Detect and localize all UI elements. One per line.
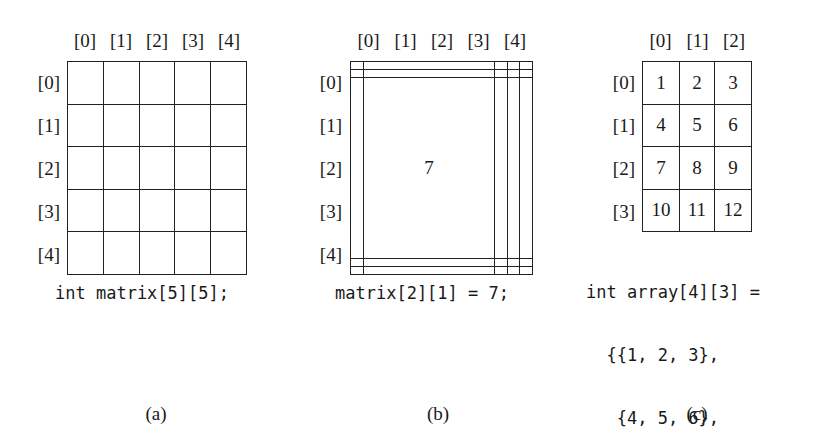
caption-c: (c) (667, 403, 727, 425)
cell: 12 (715, 189, 752, 232)
cell: 1 (643, 62, 680, 105)
col-header: [2] (716, 30, 752, 52)
code-line: int array[4][3] = (586, 282, 760, 303)
cell (68, 62, 104, 105)
code-assignment: matrix[2][1] = 7; (335, 283, 509, 304)
cell: 9 (715, 147, 752, 190)
row-header: [1] (20, 115, 60, 137)
cell (507, 69, 520, 77)
matrix-grid-b: 7 (350, 61, 533, 275)
cell (520, 62, 533, 70)
cell: 6 (715, 104, 752, 147)
row-header: [2] (302, 158, 342, 180)
cell (103, 62, 139, 105)
cell: 4 (643, 104, 680, 147)
col-header: [0] (642, 30, 679, 52)
cell (139, 189, 175, 232)
cell-assigned: 7 (363, 77, 495, 258)
row-header: [1] (302, 115, 342, 137)
col-header: [1] (679, 30, 716, 52)
cell (211, 147, 247, 190)
cell (175, 62, 211, 105)
cell (351, 259, 364, 267)
cell: 8 (679, 147, 714, 190)
cell (351, 77, 364, 258)
cell (351, 267, 364, 275)
cell (103, 104, 139, 147)
caption-b: (b) (408, 403, 468, 425)
row-header: [2] (593, 158, 635, 180)
row-header: [3] (593, 201, 635, 223)
cell (507, 267, 520, 275)
cell (68, 232, 104, 275)
cell: 2 (679, 62, 714, 105)
cell (520, 69, 533, 77)
code-line: {{1, 2, 3}, (586, 345, 760, 366)
row-header: [4] (302, 244, 342, 266)
row-header: [3] (302, 201, 342, 223)
cell (363, 267, 495, 275)
col-header: [0] (67, 30, 103, 52)
row-header: [0] (593, 72, 635, 94)
code-declaration: int matrix[5][5]; (55, 283, 229, 304)
cell: 7 (643, 147, 680, 190)
cell (139, 147, 175, 190)
cell (351, 62, 364, 70)
cell (495, 69, 508, 77)
row-header: [0] (20, 72, 60, 94)
cell (495, 267, 508, 275)
row-header: [2] (20, 158, 60, 180)
cell (175, 189, 211, 232)
cell (495, 259, 508, 267)
cell (363, 62, 495, 70)
cell (103, 189, 139, 232)
cell (68, 189, 104, 232)
cell (520, 77, 533, 258)
cell (495, 77, 508, 258)
col-header: [4] (497, 30, 533, 52)
cell: 3 (715, 62, 752, 105)
cell (139, 104, 175, 147)
row-header: [0] (302, 72, 342, 94)
cell (139, 62, 175, 105)
col-header: [2] (424, 30, 460, 52)
cell (495, 62, 508, 70)
col-header: [1] (387, 30, 424, 52)
cell (103, 232, 139, 275)
cell: 10 (643, 189, 680, 232)
cell (507, 62, 520, 70)
cell (139, 232, 175, 275)
cell (211, 104, 247, 147)
cell (363, 69, 495, 77)
cell (103, 147, 139, 190)
cell (363, 259, 495, 267)
col-header: [4] (211, 30, 247, 52)
cell (175, 232, 211, 275)
col-header: [1] (103, 30, 139, 52)
cell: 11 (679, 189, 714, 232)
cell: 5 (679, 104, 714, 147)
cell (507, 259, 520, 267)
cell (520, 259, 533, 267)
col-header: [0] (350, 30, 387, 52)
caption-a: (a) (126, 403, 186, 425)
cell (351, 69, 364, 77)
array-grid-c: 123 456 789 101112 (642, 61, 752, 232)
cell (211, 232, 247, 275)
row-header: [4] (20, 244, 60, 266)
col-header: [2] (139, 30, 175, 52)
cell (520, 267, 533, 275)
cell (211, 189, 247, 232)
matrix-grid-a (67, 61, 247, 275)
row-header: [1] (593, 115, 635, 137)
cell (68, 104, 104, 147)
row-header: [3] (20, 201, 60, 223)
cell (175, 104, 211, 147)
cell (507, 77, 520, 258)
cell (68, 147, 104, 190)
col-header: [3] (175, 30, 211, 52)
col-header: [3] (460, 30, 497, 52)
cell (175, 147, 211, 190)
cell (211, 62, 247, 105)
